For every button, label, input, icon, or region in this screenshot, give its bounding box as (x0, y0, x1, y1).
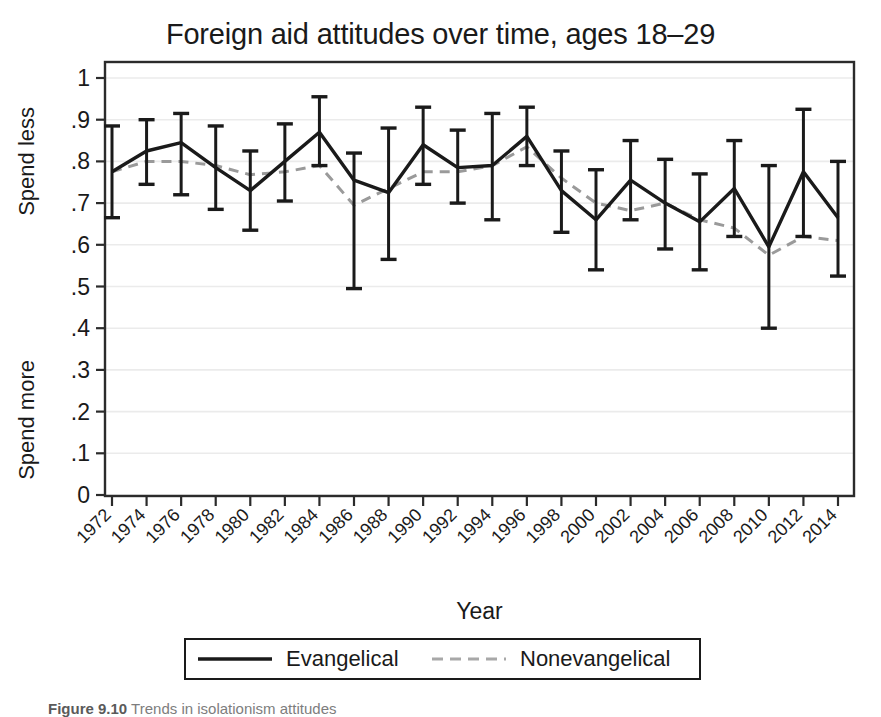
y-axis-labels: Spend lessSpend more (14, 107, 39, 480)
series-nonevangelical (112, 147, 838, 255)
svg-text:2008: 2008 (695, 505, 737, 547)
svg-text:2010: 2010 (729, 505, 771, 547)
svg-text:1980: 1980 (211, 505, 253, 547)
svg-text:1992: 1992 (418, 505, 460, 547)
svg-text:2006: 2006 (660, 505, 702, 547)
legend-swatch-evangelical (198, 652, 272, 666)
error-bars-evangelical (104, 97, 846, 328)
svg-text:.8: .8 (71, 148, 90, 174)
x-axis-title: Year (456, 598, 503, 624)
svg-text:1988: 1988 (349, 505, 391, 547)
caption-text: Trends in isolationism attitudes (127, 700, 336, 717)
legend-label-evangelical: Evangelical (286, 646, 399, 672)
svg-text:1986: 1986 (314, 505, 356, 547)
legend: Evangelical Nonevangelical (184, 638, 701, 680)
svg-text:1972: 1972 (72, 505, 114, 547)
caption-figure-number: Figure 9.10 (48, 700, 127, 717)
legend-item-nonevangelical: Nonevangelical (432, 640, 670, 678)
svg-text:.9: .9 (71, 107, 90, 133)
svg-text:1984: 1984 (280, 505, 322, 547)
svg-text:0: 0 (77, 482, 90, 508)
svg-text:1: 1 (77, 65, 90, 91)
svg-text:2000: 2000 (556, 505, 598, 547)
svg-text:2002: 2002 (591, 505, 633, 547)
svg-text:.1: .1 (71, 440, 90, 466)
svg-text:1994: 1994 (453, 505, 495, 547)
figure-caption: Figure 9.10 Trends in isolationism attit… (48, 700, 848, 717)
svg-text:1974: 1974 (107, 505, 149, 547)
svg-text:2014: 2014 (798, 505, 840, 547)
svg-text:2012: 2012 (764, 505, 806, 547)
svg-text:1990: 1990 (384, 505, 426, 547)
legend-item-evangelical: Evangelical (198, 640, 399, 678)
svg-text:.5: .5 (71, 274, 90, 300)
svg-text:1996: 1996 (487, 505, 529, 547)
svg-text:2004: 2004 (626, 505, 668, 547)
svg-text:.4: .4 (71, 315, 90, 341)
svg-text:1978: 1978 (176, 505, 218, 547)
svg-text:1982: 1982 (245, 505, 287, 547)
svg-text:Year: Year (456, 598, 503, 624)
y-axis-ticks: 0.1.2.3.4.5.6.7.8.91 (71, 65, 105, 508)
legend-swatch-nonevangelical (432, 652, 506, 666)
svg-text:Spend less: Spend less (14, 107, 39, 216)
svg-text:1976: 1976 (142, 505, 184, 547)
svg-text:.7: .7 (71, 190, 90, 216)
svg-text:.3: .3 (71, 357, 90, 383)
legend-label-nonevangelical: Nonevangelical (520, 646, 670, 672)
svg-text:.2: .2 (71, 399, 90, 425)
svg-text:1998: 1998 (522, 505, 564, 547)
svg-text:.6: .6 (71, 232, 90, 258)
series-evangelical (112, 132, 838, 247)
svg-text:Spend more: Spend more (14, 360, 39, 480)
figure-container: Foreign aid attitudes over time, ages 18… (0, 0, 881, 717)
x-axis-ticks: 1972197419761978198019821984198619881990… (72, 496, 840, 547)
chart-plot: 0.1.2.3.4.5.6.7.8.91 1972197419761978198… (0, 0, 881, 717)
